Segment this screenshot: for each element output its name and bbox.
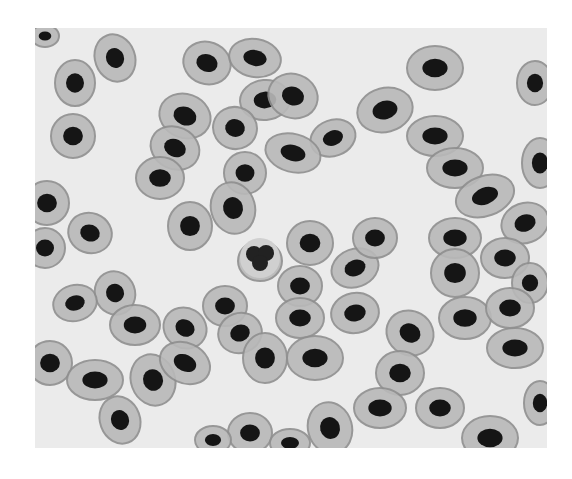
nucleus (365, 230, 385, 247)
nucleus (422, 128, 447, 145)
nucleus (236, 164, 255, 182)
nucleus (443, 230, 466, 247)
nucleus (522, 275, 538, 292)
nucleus (149, 169, 171, 187)
erythrocyte (287, 221, 333, 265)
erythrocyte (136, 157, 184, 199)
nucleus (302, 349, 327, 367)
nucleus (477, 429, 502, 447)
nucleus (82, 372, 107, 389)
nucleus (215, 298, 235, 315)
nucleus (180, 216, 200, 236)
nucleus (39, 31, 52, 40)
nucleus (36, 240, 54, 257)
leukocyte (240, 238, 280, 278)
nucleus (63, 127, 83, 145)
erythrocyte (486, 288, 534, 328)
erythrocyte (354, 388, 406, 428)
erythrocyte (524, 381, 547, 425)
erythrocyte (35, 181, 69, 225)
erythrocyte (407, 46, 463, 90)
erythrocyte (35, 228, 65, 268)
erythrocyte (168, 202, 212, 250)
nucleus (429, 400, 451, 417)
nucleus (240, 425, 260, 442)
erythrocyte (462, 416, 518, 448)
erythrocyte (243, 333, 287, 383)
erythrocyte (88, 29, 142, 88)
erythrocyte (439, 297, 491, 339)
erythrocyte (522, 138, 547, 188)
nucleus (368, 400, 391, 417)
erythrocyte (177, 35, 236, 91)
erythrocyte (487, 328, 543, 368)
erythrocyte (110, 305, 160, 345)
nucleus (533, 394, 547, 412)
nucleus (502, 340, 527, 357)
erythrocyte (55, 60, 95, 106)
nucleus (499, 300, 521, 317)
blood-cell-micrograph (35, 28, 547, 448)
erythrocyte (35, 28, 59, 47)
erythrocyte (270, 429, 310, 448)
erythrocyte (228, 413, 272, 448)
nucleus (289, 310, 311, 327)
nucleus (494, 250, 516, 267)
erythrocyte (276, 298, 324, 338)
nucleus (124, 317, 147, 334)
erythrocyte (353, 218, 397, 258)
nucleus (442, 160, 467, 177)
nucleus (66, 73, 84, 92)
erythrocyte (51, 114, 95, 158)
nucleus (40, 354, 60, 372)
nucleus (255, 348, 275, 369)
nucleus (453, 309, 476, 327)
erythrocyte (431, 249, 479, 297)
erythrocyte (67, 360, 123, 400)
nucleus (422, 59, 447, 77)
erythrocyte (49, 280, 101, 326)
erythrocyte (287, 336, 343, 380)
nucleus (527, 74, 543, 92)
nucleus (290, 278, 310, 295)
nucleus (37, 194, 57, 212)
erythrocyte (62, 207, 117, 260)
cells-layer (35, 28, 547, 448)
erythrocyte (416, 388, 464, 428)
erythrocyte (226, 35, 284, 81)
erythrocyte (195, 426, 231, 448)
nucleus (389, 364, 411, 382)
erythrocyte (328, 289, 382, 337)
nucleus (205, 434, 221, 446)
erythrocyte (517, 61, 547, 105)
nucleus (444, 263, 466, 283)
nucleus (300, 234, 321, 252)
